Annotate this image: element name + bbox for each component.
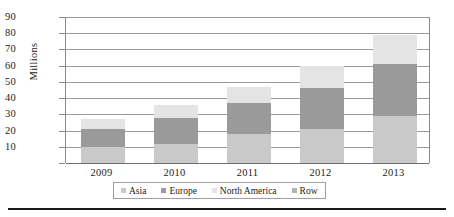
x-tick-label-2009: 2009 [67,167,137,178]
plot-area [65,17,430,163]
legend-label: Row [300,186,318,196]
bar-segment-2010-asia [154,144,198,163]
bottom-divider-rule [8,208,446,210]
y-tick-mark-0 [59,163,65,164]
y-tick-label-30: 30 [0,109,16,119]
bar-2010 [154,105,198,163]
bar-segment-2009-north-america [81,119,125,129]
bar-segment-2009-europe [81,129,125,147]
bar-2011 [227,87,271,163]
bar-2012 [300,66,344,163]
x-tick-label-2013: 2013 [359,167,429,178]
stacked-bar-chart-figure: Millions 102030405060708090 200920102011… [0,0,454,217]
y-tick-label-20: 20 [0,126,16,136]
gridline-0 [66,163,429,164]
x-tick-label-2012: 2012 [286,167,356,178]
legend-item-europe[interactable]: Europe [161,186,196,196]
legend-item-row[interactable]: Row [292,186,318,196]
x-tick-label-2011: 2011 [213,167,283,178]
legend-swatch-icon [292,188,297,193]
bar-segment-2012-north-america [300,66,344,89]
legend-swatch-icon [161,188,166,193]
legend-item-north-america[interactable]: North America [212,186,277,196]
y-tick-label-10: 10 [0,142,16,152]
bar-segment-2012-asia [300,129,344,163]
chart-legend: AsiaEuropeNorth AmericaRow [113,182,326,199]
y-tick-label-50: 50 [0,77,16,87]
y-axis-title: Millions [28,27,39,97]
bar-segment-2011-asia [227,134,271,163]
bar-2009 [81,119,125,163]
bar-2013 [373,35,417,163]
bar-segment-2011-europe [227,103,271,134]
legend-label: Europe [169,186,196,196]
bar-segment-2013-asia [373,116,417,163]
legend-swatch-icon [212,188,217,193]
bar-segment-2013-europe [373,64,417,116]
legend-swatch-icon [121,188,126,193]
bar-segment-2010-europe [154,118,198,144]
y-tick-label-80: 80 [0,28,16,38]
x-tick-label-2010: 2010 [140,167,210,178]
bar-segment-2013-north-america [373,35,417,64]
bar-segment-2009-asia [81,147,125,163]
legend-item-asia[interactable]: Asia [121,186,146,196]
y-tick-label-40: 40 [0,93,16,103]
bar-segment-2010-north-america [154,105,198,118]
bar-segment-2012-europe [300,88,344,129]
y-tick-label-90: 90 [0,12,16,22]
y-tick-label-70: 70 [0,44,16,54]
y-tick-label-60: 60 [0,61,16,71]
bar-segment-2011-north-america [227,87,271,103]
gridline-90 [66,17,429,18]
legend-label: Asia [129,186,146,196]
legend-label: North America [220,186,277,196]
